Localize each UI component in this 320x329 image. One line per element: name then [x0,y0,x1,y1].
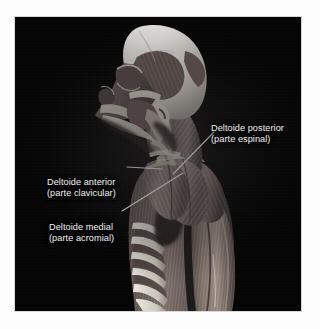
annotation-line-1: Deltoide medial [49,222,113,232]
annotation-line-1: Deltoide anterior [47,177,115,187]
annotation-label-deltoide-anterior: Deltoide anterior (parte clavicular) [47,177,116,200]
annotation-label-deltoide-medial: Deltoide medial (parte acromial) [49,222,114,245]
anatomy-illustration [15,17,301,311]
annotation-line-2: (parte espinal) [211,134,284,145]
annotation-label-deltoide-posterior: Deltoide posterior (parte espinal) [211,123,284,146]
anatomy-body-group [95,25,235,311]
anatomy-image-plate: Deltoide posterior (parte espinal) Delto… [15,17,301,311]
annotation-line-2: (parte clavicular) [47,188,116,199]
annotation-line-2: (parte acromial) [49,233,114,244]
annotation-line-1: Deltoide posterior [211,123,284,133]
figure-page: Deltoide posterior (parte espinal) Delto… [0,0,320,329]
